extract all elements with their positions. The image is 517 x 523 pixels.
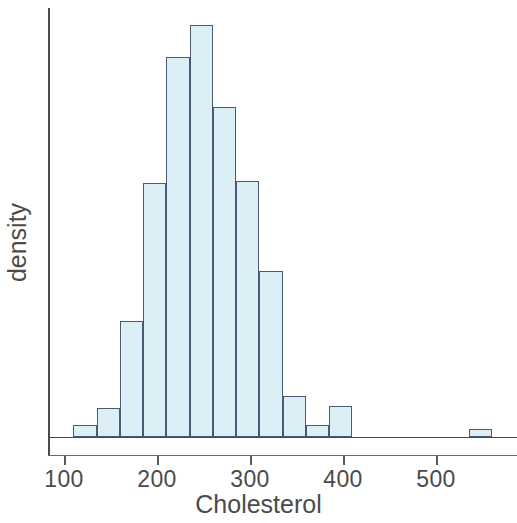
x-axis-spine bbox=[48, 437, 517, 438]
histogram-bar bbox=[259, 271, 282, 437]
x-axis-tick bbox=[250, 456, 252, 465]
histogram-bar bbox=[97, 408, 120, 437]
histogram-bar bbox=[190, 25, 213, 437]
x-axis-tick-label: 400 bbox=[308, 466, 378, 493]
plot-area bbox=[48, 8, 517, 437]
histogram-bar bbox=[73, 425, 96, 437]
x-axis-tick-rail bbox=[48, 455, 517, 456]
x-axis-tick bbox=[64, 456, 66, 465]
x-axis-tick bbox=[436, 456, 438, 465]
x-axis-tick-label: 100 bbox=[29, 466, 99, 493]
histogram-bar bbox=[213, 107, 236, 437]
histogram-bar bbox=[166, 57, 189, 437]
x-axis-tick bbox=[343, 456, 345, 465]
histogram-figure: 100200300400500 density Cholesterol bbox=[0, 0, 517, 523]
x-axis-left-cap bbox=[48, 437, 50, 456]
histogram-bar bbox=[236, 181, 259, 437]
histogram-bar bbox=[120, 321, 143, 437]
histogram-bar bbox=[306, 425, 329, 437]
x-axis-tick-label: 300 bbox=[215, 466, 285, 493]
x-axis-tick-label: 500 bbox=[401, 466, 471, 493]
x-axis-tick-label: 200 bbox=[122, 466, 192, 493]
histogram-bar bbox=[143, 183, 166, 437]
histogram-bar bbox=[469, 429, 492, 437]
x-axis-tick bbox=[157, 456, 159, 465]
histogram-bar bbox=[329, 406, 352, 437]
y-axis-label: density bbox=[3, 158, 32, 328]
x-axis-label: Cholesterol bbox=[0, 490, 517, 519]
histogram-bar bbox=[283, 396, 306, 437]
